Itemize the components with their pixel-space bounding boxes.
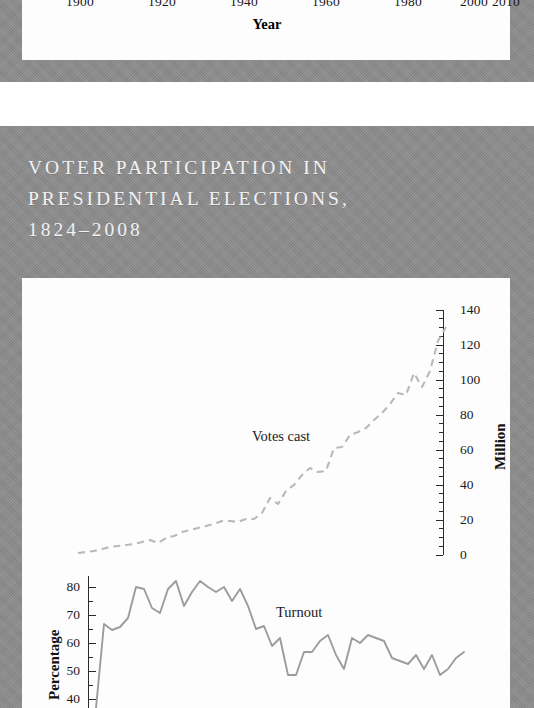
figure-above-x-axis-title: Year xyxy=(0,16,534,33)
left-axis xyxy=(88,576,96,708)
right-axis-title: Million xyxy=(492,423,509,470)
x-tick-label: 2010 xyxy=(492,0,520,10)
x-tick-label: 1940 xyxy=(230,0,258,10)
x-tick-label: 1900 xyxy=(66,0,94,10)
right-tick-label: 0 xyxy=(460,547,467,563)
x-tick-label: 1960 xyxy=(312,0,340,10)
right-tick-label: 100 xyxy=(460,372,480,388)
votes-cast-annotation: Votes cast xyxy=(252,428,310,445)
right-tick-label: 120 xyxy=(460,337,480,353)
left-tick-label: 80 xyxy=(56,579,80,595)
chart-canvas xyxy=(22,278,510,708)
left-tick-label: 40 xyxy=(56,691,80,707)
x-tick-label: 2000 xyxy=(460,0,488,10)
right-axis xyxy=(436,310,443,555)
left-tick-label: 50 xyxy=(56,663,80,679)
figure-title: VOTER PARTICIPATION IN PRESIDENTIAL ELEC… xyxy=(28,152,468,245)
left-tick-label: 70 xyxy=(56,607,80,623)
right-tick-label: 20 xyxy=(460,512,474,528)
right-tick-label: 60 xyxy=(460,442,474,458)
left-tick-label: 60 xyxy=(56,635,80,651)
x-tick-label: 1920 xyxy=(148,0,176,10)
figure-above-x-tick-labels: 1900 1920 1940 1960 1980 2000 2010 xyxy=(22,0,510,16)
right-tick-label: 80 xyxy=(460,407,474,423)
right-tick-label: 40 xyxy=(460,477,474,493)
turnout-annotation: Turnout xyxy=(276,604,322,621)
series-turnout xyxy=(96,581,464,708)
right-tick-label: 140 xyxy=(460,302,480,318)
x-tick-label: 1980 xyxy=(394,0,422,10)
